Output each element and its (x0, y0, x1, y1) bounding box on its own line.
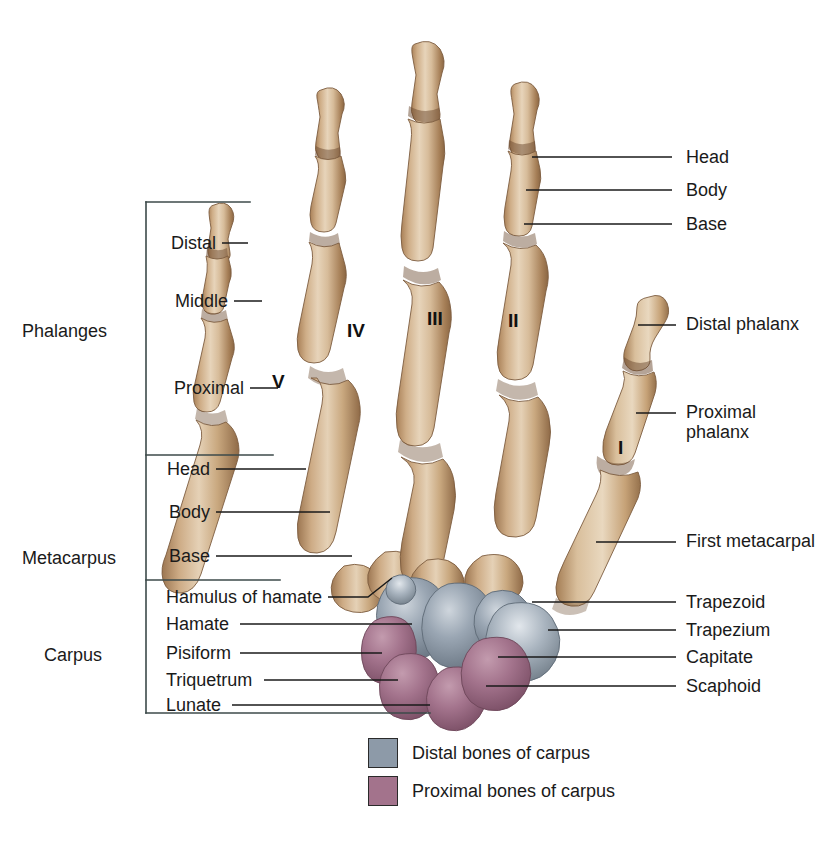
digit-numeral-iv: IV (347, 320, 365, 342)
label-middle-phalanx: Middle (66, 291, 228, 311)
digit-numeral-i: I (618, 437, 623, 459)
label-phalanx-body: Body (686, 180, 727, 200)
label-thumb-proximal-phalanx: Proximal phalanx (686, 402, 816, 442)
legend-proximal-carpus: Proximal bones of carpus (368, 776, 615, 806)
label-phalanx-base: Base (686, 214, 727, 234)
hand-bones-figure: Phalanges Metacarpus Carpus Distal Middl… (0, 0, 818, 859)
label-triquetrum: Triquetrum (166, 670, 252, 690)
label-pisiform: Pisiform (166, 643, 231, 663)
label-proximal-phalanx: Proximal (66, 378, 244, 398)
digit-iv-bones (297, 88, 422, 603)
label-trapezium: Trapezium (686, 620, 770, 640)
label-hamate: Hamate (166, 614, 229, 634)
label-lunate: Lunate (166, 695, 221, 715)
label-metacarpal-base: Base (66, 546, 210, 566)
label-thumb-distal-phalanx: Distal phalanx (686, 314, 816, 334)
digit-numeral-v: V (272, 371, 285, 393)
digit-numeral-iii: III (427, 308, 443, 330)
label-first-metacarpal: First metacarpal (686, 531, 816, 551)
legend-label-distal: Distal bones of carpus (412, 743, 590, 764)
label-distal-phalanx: Distal (66, 233, 216, 253)
legend-swatch-distal-icon (368, 738, 398, 768)
digit-i-thumb-bones (552, 295, 669, 615)
label-trapezoid: Trapezoid (686, 592, 765, 612)
legend-swatch-proximal-icon (368, 776, 398, 806)
legend-label-proximal: Proximal bones of carpus (412, 781, 615, 802)
label-metacarpal-body: Body (66, 502, 210, 522)
group-label-carpus: Carpus (44, 645, 102, 666)
group-label-phalanges: Phalanges (22, 321, 107, 342)
digit-numeral-ii: II (508, 310, 519, 332)
legend-distal-carpus: Distal bones of carpus (368, 738, 590, 768)
digit-ii-bones (465, 82, 551, 607)
label-phalanx-head: Head (686, 147, 729, 167)
label-hamulus-of-hamate: Hamulus of hamate (166, 587, 322, 607)
label-capitate: Capitate (686, 647, 753, 667)
label-metacarpal-head: Head (66, 459, 210, 479)
label-scaphoid: Scaphoid (686, 676, 761, 696)
